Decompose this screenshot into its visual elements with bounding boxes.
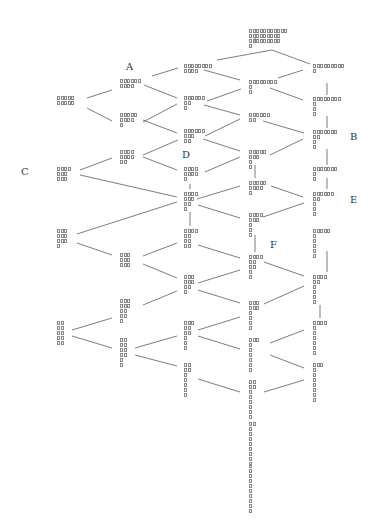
edge-line: [270, 330, 304, 343]
tree-node: [313, 97, 341, 117]
edge-line: [87, 90, 112, 98]
glyph-box: [188, 368, 191, 372]
edge-line: [278, 70, 303, 78]
glyph-box: [127, 253, 130, 257]
glyph-box: [313, 112, 316, 116]
tree-node: [120, 299, 131, 324]
glyph-box: [195, 172, 198, 176]
edge-line: [203, 139, 240, 151]
node-row: [249, 191, 267, 196]
node-row: [184, 69, 212, 74]
glyph-box: [120, 363, 123, 367]
glyph-box: [249, 452, 252, 456]
glyph-box: [249, 90, 252, 94]
edge-line: [204, 105, 240, 115]
edge-line: [80, 175, 177, 197]
node-row: [184, 207, 198, 212]
glyph-box: [184, 388, 187, 392]
glyph-box: [249, 343, 252, 347]
glyph-box: [267, 113, 270, 117]
glyph-box: [191, 275, 194, 279]
glyph-box: [249, 233, 252, 237]
edge-line: [271, 186, 303, 197]
tree-node: [57, 321, 64, 346]
glyph-box: [249, 489, 252, 493]
node-row: [120, 160, 134, 165]
glyph-box: [61, 336, 64, 340]
glyph-box: [64, 229, 67, 233]
edge-line: [143, 291, 177, 305]
glyph-box: [202, 96, 205, 100]
tree-node: [184, 96, 205, 111]
tree-node: [249, 422, 256, 467]
glyph-box: [263, 181, 266, 185]
node-row: [313, 177, 338, 182]
node-row: [313, 212, 334, 217]
glyph-box: [313, 207, 316, 211]
node-row: [249, 368, 260, 373]
edges-layer: [0, 0, 375, 527]
glyph-box: [188, 331, 191, 335]
glyph-box: [64, 172, 67, 176]
glyph-box: [191, 321, 194, 325]
edge-line: [263, 203, 304, 217]
glyph-box: [249, 499, 252, 503]
glyph-box: [195, 69, 198, 73]
edge-line: [143, 264, 177, 278]
node-row: [57, 244, 68, 249]
node-row: [120, 123, 138, 128]
glyph-box: [184, 383, 187, 387]
glyph-box: [195, 192, 198, 196]
glyph-box: [184, 346, 187, 350]
glyph-box: [313, 383, 316, 387]
edge-line: [87, 108, 112, 121]
glyph-box: [313, 145, 316, 149]
node-row: [249, 275, 263, 280]
edge-line: [205, 157, 240, 172]
glyph-box: [313, 212, 316, 216]
glyph-box: [249, 165, 252, 169]
tree-node: [120, 79, 141, 89]
glyph-box: [195, 167, 198, 171]
glyph-box: [249, 270, 252, 274]
glyph-box: [253, 380, 256, 384]
glyph-box: [313, 368, 316, 372]
glyph-box: [71, 101, 74, 105]
glyph-box: [263, 150, 266, 154]
glyph-box: [249, 447, 252, 451]
glyph-box: [338, 97, 341, 101]
tree-node: [57, 96, 75, 106]
glyph-box: [317, 197, 320, 201]
glyph-box: [249, 368, 252, 372]
glyph-box: [184, 207, 187, 211]
edge-line: [77, 202, 177, 234]
glyph-box: [313, 393, 316, 397]
glyph-box: [249, 326, 252, 330]
tree-node: [313, 64, 345, 74]
glyph-box: [249, 353, 252, 357]
glyph-box: [313, 102, 316, 106]
glyph-box: [249, 85, 252, 89]
tree-node: [249, 338, 260, 373]
tree-node: [313, 275, 327, 305]
glyph-box: [313, 285, 316, 289]
tree-node: [249, 464, 253, 514]
glyph-box: [253, 385, 256, 389]
glyph-box: [184, 341, 187, 345]
glyph-box: [249, 395, 252, 399]
glyph-box: [324, 275, 327, 279]
edge-line: [198, 290, 240, 303]
tree-node: [184, 363, 191, 398]
glyph-box: [120, 123, 123, 127]
node-row: [249, 233, 263, 238]
glyph-box: [313, 295, 316, 299]
glyph-box: [209, 64, 212, 68]
tree-node: [120, 113, 138, 128]
tree-node: [249, 113, 270, 123]
glyph-box: [341, 64, 344, 68]
edge-line: [272, 50, 310, 64]
glyph-box: [253, 118, 256, 122]
glyph-box: [61, 326, 64, 330]
edge-line: [217, 50, 272, 60]
node-row: [184, 106, 205, 111]
